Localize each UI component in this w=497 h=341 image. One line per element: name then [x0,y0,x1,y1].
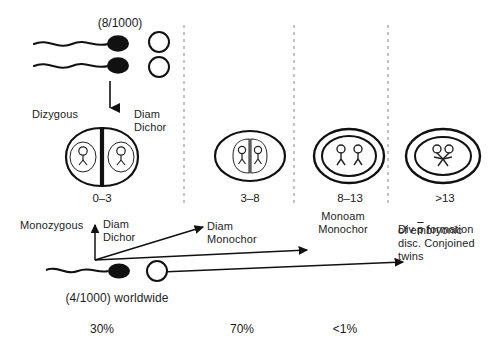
branch-label-diam-dichor-line2: Dichor [103,231,173,244]
branch-label-diam-monochor-line2: Monochor [207,233,287,246]
arrow-to-conjoined-twins [161,262,403,272]
gametes-monozygotic-group [44,258,174,288]
branch-label-monoam-monochor-line1: Monoam [300,210,386,223]
branch-label-conjoined-line2: of embryonic [398,224,497,237]
percentage-col-8-13: <1% [305,322,385,336]
monozygotic-incidence-label: (4/1000) worldwide [42,292,192,305]
ovum-icon [147,261,167,281]
monozygous-branch-arrows [0,0,497,341]
percentage-col-0-3: 30% [62,322,142,336]
branch-label-monoam-monochor-line2: Monochor [300,223,386,236]
branch-label-conjoined-line4: twins [398,250,497,263]
branch-label-diam-dichor-line1: Diam [103,218,173,231]
twin-zygosity-diagram: (8/1000) Dizygous Diam Dichor [0,0,497,341]
percentage-col-3-8: 70% [202,322,282,336]
monozygous-label: Monozygous [20,219,96,232]
branch-label-conjoined-line3: disc. Conjoined [398,237,497,250]
sperm-icon [46,264,130,279]
branch-label-diam-monochor-line1: Diam [207,220,287,233]
